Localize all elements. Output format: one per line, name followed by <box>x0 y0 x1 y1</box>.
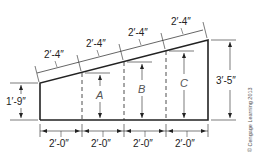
bottom-dim-3: 2′-0″ <box>133 138 153 149</box>
left-height-label: 1′-9″ <box>6 96 26 107</box>
bottom-dim-1: 2′-0″ <box>49 138 69 149</box>
slope-dim-1: 2′-4″ <box>44 49 64 60</box>
slope-dim-3: 2′-4″ <box>128 27 148 38</box>
right-height-label: 3′-5″ <box>216 75 236 86</box>
height-a-label: A <box>95 89 103 101</box>
slope-dim-4: 2′-4″ <box>171 16 191 27</box>
height-b-label: B <box>138 83 145 95</box>
height-c-label: C <box>180 77 188 89</box>
copyright: © Cengage Learning 2013 <box>247 87 253 152</box>
wall-elevation-diagram: 2′-4″ 2′-4″ 2′-4″ 2′-4″ 1′-9″ 3′-5″ A B … <box>0 0 262 165</box>
bottom-dim-4: 2′-0″ <box>175 138 195 149</box>
bottom-dim-2: 2′-0″ <box>91 138 111 149</box>
slope-dim-2: 2′-4″ <box>86 38 106 49</box>
